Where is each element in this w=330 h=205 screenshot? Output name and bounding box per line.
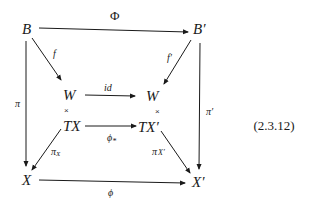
node-B: B <box>22 21 31 37</box>
node-TX-prime: TX′ <box>138 119 160 135</box>
node-W: W <box>63 87 77 103</box>
product-sign-left: × <box>64 106 69 115</box>
label-f: f <box>53 48 57 59</box>
arrow-TXprime-to-Xprime <box>161 131 190 173</box>
equation-number: (2.3.12) <box>253 118 294 133</box>
commutative-diagram: B B′ W W TX TX′ X X′ × × Φ f f′ id ϕ* π … <box>0 0 330 205</box>
node-W-prime: W <box>146 88 160 104</box>
arrow-X-to-Xprime <box>39 180 185 183</box>
label-id: id <box>104 82 113 93</box>
label-phi: ϕ <box>108 187 113 198</box>
label-pi-X: πX <box>51 146 61 158</box>
node-B-prime: B′ <box>193 21 206 37</box>
arrow-B-to-W <box>32 38 61 80</box>
label-Phi: Φ <box>110 8 120 23</box>
node-TX: TX <box>63 118 81 134</box>
label-f-prime: f′ <box>167 52 173 63</box>
node-X-prime: X′ <box>191 174 205 190</box>
label-pi: π <box>15 98 21 109</box>
arrow-W-to-Wprime <box>85 95 135 96</box>
label-pi-X-prime: πX′ <box>152 146 165 157</box>
arrow-Bprime-to-Xprime <box>199 43 200 169</box>
node-X: X <box>21 172 32 188</box>
arrow-B-to-Bprime <box>39 28 188 32</box>
label-pi-prime: π′ <box>206 106 214 117</box>
label-phi-star: ϕ* <box>107 132 116 146</box>
product-sign-right: × <box>155 107 160 116</box>
